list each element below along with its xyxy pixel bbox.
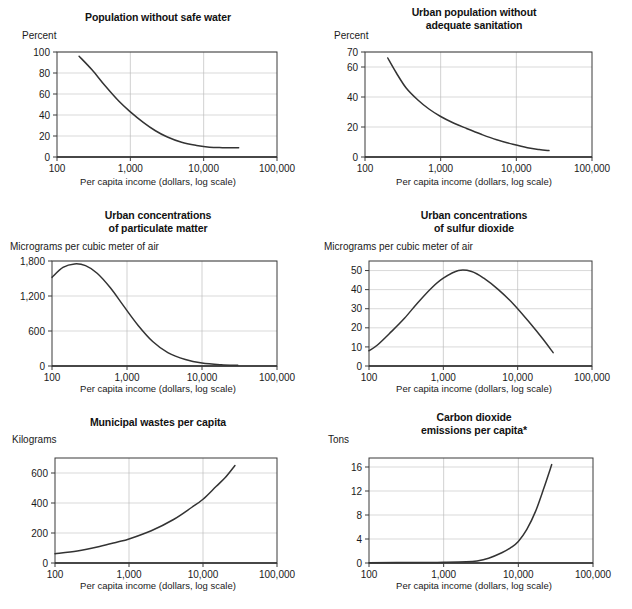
x-tick-label: 10,000 [502,372,533,383]
plot-area: 04812161001,00010,000100,000 [316,410,632,609]
x-tick-label: 100,000 [259,372,296,383]
chart-panel-urban-concentrations-of-sulfur-dioxide: Urban concentrationsof sulfur dioxideMic… [316,205,632,410]
y-tick-label: 0 [356,361,362,372]
x-tick-label: 10,000 [501,163,532,174]
y-tick-label: 40 [351,284,363,295]
data-curve [388,58,549,151]
y-tick-label: 0 [39,361,45,372]
chart-panel-urban-concentrations-of-particulate-matter: Urban concentrationsof particulate matte… [0,205,316,410]
data-curve [369,270,553,353]
x-tick-label: 100 [357,163,374,174]
x-tick-label: 10,000 [187,372,218,383]
y-tick-label: 1,200 [20,291,45,302]
x-tick-label: 100,000 [574,372,611,383]
x-tick-label: 100 [47,569,64,580]
x-tick-label: 100,000 [574,163,611,174]
y-tick-label: 16 [351,462,363,473]
x-tick-label: 100,000 [259,569,296,580]
y-tick-label: 20 [39,131,51,142]
y-tick-label: 60 [347,62,359,73]
data-curve [55,466,235,554]
data-curve [369,465,552,563]
y-tick-label: 0 [356,558,362,569]
plot-area: 06001,2001,8001001,00010,000100,000 [0,205,316,410]
x-tick-label: 100 [44,372,61,383]
plot-frame [365,52,592,157]
chart-panel-population-without-safe-water: Population without safe waterPercentPer … [0,0,316,205]
chart-panel-carbon-dioxide-emissions-per-capita: Carbon dioxideemissions per capita*TonsP… [316,410,632,609]
x-tick-label: 1,000 [114,372,139,383]
y-tick-label: 100 [33,47,50,58]
x-tick-label: 100,000 [575,569,612,580]
y-tick-label: 40 [347,92,359,103]
y-tick-label: 30 [351,303,363,314]
x-tick-label: 1,000 [428,163,453,174]
y-tick-label: 10 [351,342,363,353]
y-tick-label: 50 [351,265,363,276]
plot-frame [55,458,277,563]
plot-area: 0204060801001001,00010,000100,000 [0,0,316,205]
x-tick-label: 1,000 [431,569,456,580]
chart-panel-municipal-wastes-per-capita: Municipal wastes per capitaKilogramsPer … [0,410,316,609]
charts-grid: Population without safe waterPercentPer … [0,0,632,609]
y-tick-label: 40 [39,110,51,121]
plot-area: 02004006001001,00010,000100,000 [0,410,316,609]
x-tick-label: 10,000 [503,569,534,580]
y-tick-label: 4 [356,534,362,545]
data-curve [79,56,239,148]
plot-area: 0204060701001,00010,000100,000 [316,0,632,205]
x-tick-label: 100,000 [259,163,296,174]
y-tick-label: 0 [352,152,358,163]
y-tick-label: 200 [31,528,48,539]
y-tick-label: 70 [347,47,359,58]
x-tick-label: 100 [361,372,378,383]
data-curve [52,264,238,365]
x-tick-label: 1,000 [431,372,456,383]
x-tick-label: 100 [361,569,378,580]
y-tick-label: 1,800 [20,256,45,267]
x-tick-label: 10,000 [188,163,219,174]
y-tick-label: 80 [39,68,51,79]
y-tick-label: 20 [351,322,363,333]
chart-panel-urban-population-without-adequate-sanitation: Urban population withoutadequate sanitat… [316,0,632,205]
y-tick-label: 60 [39,89,51,100]
plot-area: 010203040501001,00010,000100,000 [316,205,632,410]
y-tick-label: 8 [356,510,362,521]
y-tick-label: 600 [31,468,48,479]
y-tick-label: 0 [44,152,50,163]
x-tick-label: 100 [49,163,66,174]
x-tick-label: 1,000 [118,163,143,174]
y-tick-label: 20 [347,122,359,133]
y-tick-label: 12 [351,486,363,497]
y-tick-label: 0 [42,558,48,569]
y-tick-label: 400 [31,498,48,509]
y-tick-label: 600 [28,326,45,337]
x-tick-label: 1,000 [116,569,141,580]
plot-frame [369,458,593,563]
x-tick-label: 10,000 [188,569,219,580]
